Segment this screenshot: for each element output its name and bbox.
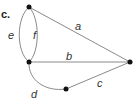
edge-label-d: d [31, 88, 38, 100]
panel-label: c. [1, 8, 10, 20]
node-left [27, 60, 32, 65]
graph-diagram: c. a b c d e f [0, 0, 137, 102]
edge-e [19, 7, 29, 62]
edge-label-a: a [75, 20, 81, 32]
edge-label-e: e [8, 29, 14, 41]
edge-label-f: f [33, 29, 37, 41]
node-bottom [64, 87, 69, 92]
edge-d [29, 62, 66, 89]
edge-label-c: c [97, 77, 103, 89]
node-right [128, 60, 133, 65]
node-top [27, 5, 32, 10]
edge-a [29, 7, 130, 62]
edge-label-b: b [66, 50, 72, 62]
